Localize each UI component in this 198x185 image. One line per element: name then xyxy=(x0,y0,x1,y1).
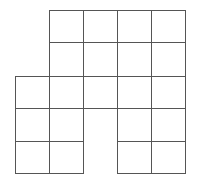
grid-cell xyxy=(118,43,152,77)
grid-cell xyxy=(152,142,186,174)
grid-cell xyxy=(16,77,50,109)
grid-cell xyxy=(84,43,118,77)
grid-cell xyxy=(50,43,84,77)
grid-cell xyxy=(16,142,50,174)
grid-cell xyxy=(50,77,84,109)
grid-cell xyxy=(152,109,186,142)
grid-cell xyxy=(118,109,152,142)
square-grid-diagram xyxy=(0,0,198,185)
grid-cell xyxy=(118,142,152,174)
grid-cell xyxy=(84,11,118,43)
grid-cell xyxy=(50,109,84,142)
grid-cell xyxy=(16,109,50,142)
grid-cell xyxy=(152,11,186,43)
grid-cell xyxy=(50,11,84,43)
grid-cell xyxy=(50,142,84,174)
grid-cell xyxy=(152,77,186,109)
grid-cell xyxy=(118,11,152,43)
grid-cell xyxy=(84,77,118,109)
grid-cell xyxy=(152,43,186,77)
grid-cell xyxy=(118,77,152,109)
